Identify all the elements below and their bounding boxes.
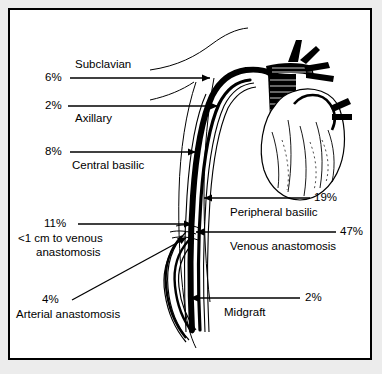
label-under-1cm-venous-line1: <1 cm to venous [18, 232, 103, 244]
label-subclavian: Subclavian [75, 58, 131, 71]
percent-central-basilic: 8% [45, 145, 62, 158]
percent-subclavian: 6% [45, 71, 62, 84]
percent-arterial-anastomosis: 4% [42, 293, 59, 306]
label-axillary: Axillary [75, 112, 112, 125]
label-venous-anastomosis: Venous anastomosis [230, 240, 336, 253]
percent-midgraft: 2% [305, 291, 322, 304]
label-under-1cm-venous-line2: anastomosis [18, 245, 136, 259]
label-midgraft: Midgraft [224, 306, 266, 319]
label-arterial-anastomosis: Arterial anastomosis [16, 308, 120, 321]
percent-venous-anastomosis: 47% [340, 225, 363, 238]
percent-under-1cm-venous: 11% [44, 217, 66, 230]
figure-container: 6% Subclavian 2% Axillary 8% Central bas… [0, 0, 382, 374]
percent-peripheral-basilic: 19% [314, 191, 337, 204]
label-central-basilic: Central basilic [72, 159, 144, 172]
label-under-1cm-venous: <1 cm to venous anastomosis [18, 231, 136, 259]
percent-axillary: 2% [45, 99, 62, 112]
label-peripheral-basilic: Peripheral basilic [230, 206, 318, 219]
